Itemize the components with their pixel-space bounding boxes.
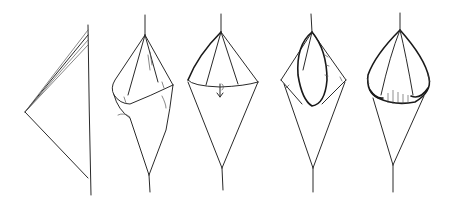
fig2-left-lower-edge <box>114 95 149 175</box>
fig5-shading-hatch <box>367 75 430 104</box>
figure-2-rolled-cone <box>112 15 173 192</box>
figure-4-inner-fold <box>281 14 346 192</box>
fig5-right-shadow <box>411 88 428 97</box>
fig3-bottom-tail <box>222 168 223 190</box>
fig5-left-lower-edge <box>373 98 393 165</box>
fig2-bottom-tail <box>149 175 150 192</box>
fig4-inner-line <box>303 32 312 70</box>
fig1-fold-line-3 <box>25 30 88 112</box>
fig2-inner-fold-right <box>145 35 158 82</box>
fig1-fold-line-1 <box>26 40 88 111</box>
figure-5-rounded-pouch <box>367 13 430 192</box>
fig2-right-lower-edge <box>149 85 173 175</box>
fig1-fold-line-2 <box>27 45 88 110</box>
fig5-right-lower-edge <box>393 96 424 165</box>
fig4-right-lower-edge <box>313 82 345 168</box>
fig1-bottom-edge <box>25 112 88 178</box>
figure-3-cone-with-arrow <box>188 14 258 190</box>
fig1-top-edge <box>25 35 88 112</box>
fig1-vertical-line <box>88 25 91 195</box>
fig4-left-lower-edge <box>284 84 313 168</box>
fig2-right-top-edge <box>145 35 173 85</box>
fig5-pouch-outline <box>368 30 430 103</box>
fig3-right-lower-edge <box>222 82 258 168</box>
fig3-left-lower-edge <box>188 82 222 168</box>
fig4-inner-loop <box>298 32 327 106</box>
fig5-inner-line-right <box>400 30 413 95</box>
fig4-rim-lines <box>281 80 346 104</box>
folding-diagram <box>0 0 456 200</box>
figure-1-flat-triangle <box>25 25 91 195</box>
fig3-inner-line-right <box>221 32 238 84</box>
fig4-left-top-edge <box>281 32 312 80</box>
fig4-top-string <box>311 14 312 32</box>
fold-arrow-icon <box>217 84 224 97</box>
fig3-right-top-edge <box>221 32 258 82</box>
fig3-left-top-edge <box>188 32 221 80</box>
fig2-crease <box>162 96 166 108</box>
fig2-inner-fold-left <box>128 35 145 95</box>
fig2-left-top-edge <box>112 35 145 95</box>
